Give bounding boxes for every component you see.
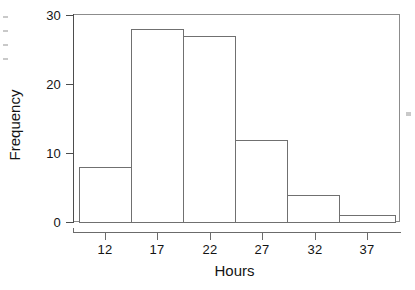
- x-axis-tick-label: 17: [144, 243, 170, 257]
- y-axis-tick: [66, 15, 73, 16]
- x-axis-tick: [157, 233, 158, 240]
- x-axis-tick-label: 12: [92, 243, 118, 257]
- x-axis-tick: [315, 233, 316, 240]
- x-axis-tick-label: 22: [197, 243, 223, 257]
- histogram-bar: [287, 195, 340, 223]
- y-axis-tick: [66, 222, 73, 223]
- histogram-bar: [339, 215, 396, 223]
- y-axis-tick-label: 30: [46, 9, 61, 22]
- y-axis-tick: [66, 84, 73, 85]
- y-axis-tick-label: 20: [46, 78, 61, 91]
- y-axis-line: [73, 14, 74, 223]
- x-axis-tick: [210, 233, 211, 240]
- x-axis-tick: [262, 233, 263, 240]
- histogram-bar: [183, 36, 236, 223]
- histogram-figure: 0 10 20 30 12 17 22 27 32 37 Hours Frequ…: [0, 0, 415, 290]
- x-axis-title-text: Hours: [214, 262, 254, 279]
- x-axis-title: Hours: [0, 262, 415, 279]
- histogram-bar: [131, 29, 184, 223]
- x-axis-tick: [105, 233, 106, 240]
- y-axis-title-text: Frequency: [7, 90, 23, 161]
- histogram-bar: [79, 167, 132, 223]
- y-axis-title: Frequency: [2, 0, 28, 250]
- y-axis-tick: [66, 153, 73, 154]
- x-axis-line: [73, 232, 401, 233]
- x-axis-tick: [367, 233, 368, 240]
- scan-artifact: [406, 112, 411, 116]
- x-axis-tick-label: 37: [354, 243, 380, 257]
- x-axis-left-cap: [73, 228, 74, 233]
- y-axis-tick-label: 0: [54, 216, 61, 229]
- histogram-bar: [235, 140, 288, 223]
- x-axis-tick-label: 27: [249, 243, 275, 257]
- y-axis-tick-label: 10: [46, 147, 61, 160]
- x-axis-tick-label: 32: [302, 243, 328, 257]
